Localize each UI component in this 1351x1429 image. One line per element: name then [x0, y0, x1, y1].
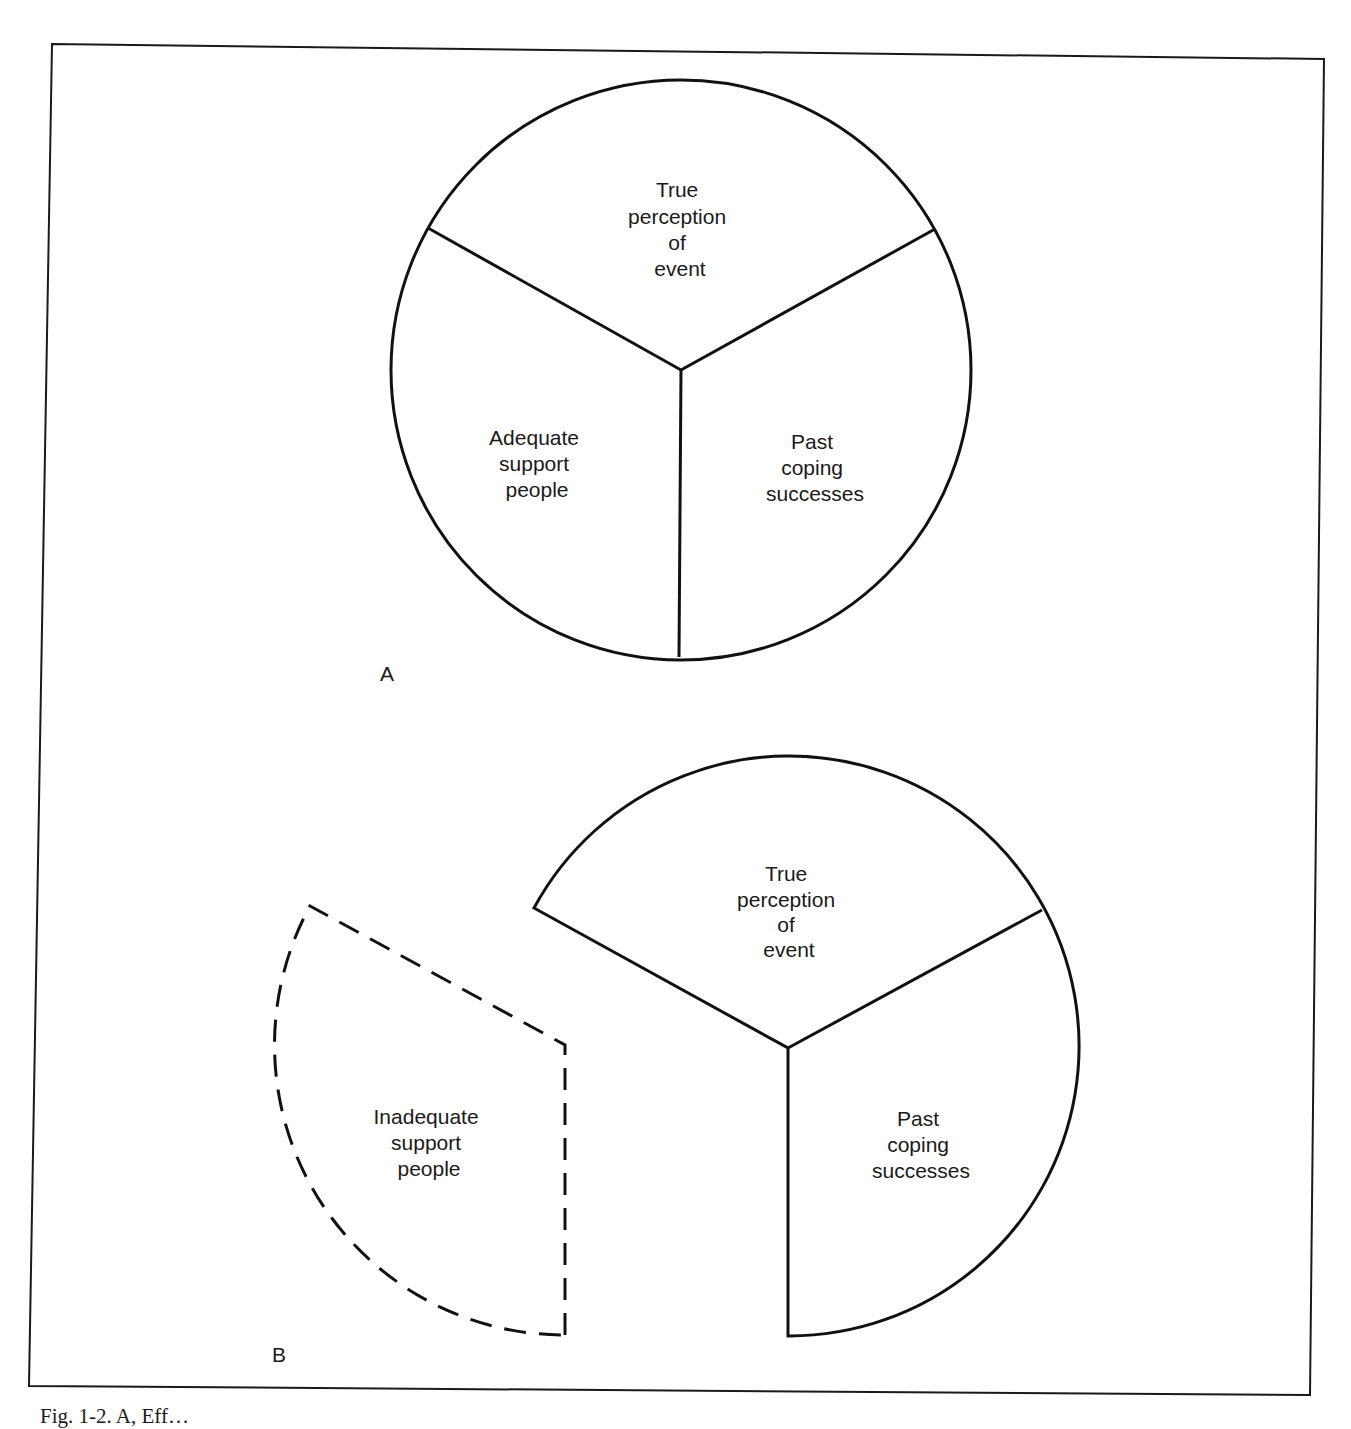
panel-b-top-label: True perception of event [737, 862, 841, 961]
panel-b-partial-circle [534, 756, 1079, 1336]
panel-a-right-label: Past coping successes [766, 430, 864, 505]
panel-a-label: A [380, 662, 394, 685]
panel-a-divider-bottom [679, 370, 681, 657]
figure-caption: Fig. 1-2. A, Eff… [40, 1404, 189, 1429]
panel-a-divider-left [428, 228, 681, 370]
panel-a-left-label: Adequate support people [489, 426, 585, 501]
panel-b-divider-right [788, 910, 1042, 1048]
panel-b-label: B [272, 1343, 286, 1366]
panel-b: True perception of event Past coping suc… [272, 756, 1079, 1366]
panel-a: True perception of event Adequate suppor… [380, 80, 971, 685]
panel-a-top-label: True perception of event [628, 178, 732, 280]
panel-b-detached-label: Inadequate support people [374, 1105, 485, 1180]
panel-b-right-label: Past coping successes [872, 1107, 970, 1182]
panel-a-divider-right [681, 229, 935, 370]
